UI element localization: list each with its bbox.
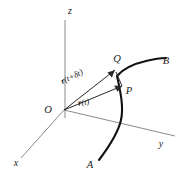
x-axis-line (21, 110, 64, 158)
axes-group (21, 20, 175, 158)
z-axis-label: z (67, 5, 72, 16)
vector-r-t-argument: (t) (81, 96, 91, 107)
vector-r-t-delta-label: r(t+δt) (59, 67, 85, 86)
vector-r-t-delta-label-group: r(t+δt) (59, 67, 85, 86)
y-axis-label: y (158, 138, 164, 149)
origin-label: O (44, 104, 52, 115)
point-q-label: Q (113, 53, 121, 64)
vector-diagram-figure: z y x O A B P Q r(t) r(t+δt) (0, 0, 181, 178)
diagram-canvas: z y x O A B P Q r(t) r(t+δt) (0, 0, 181, 178)
x-axis-label: x (13, 157, 19, 168)
vector-r-t-line (64, 86, 122, 110)
vector-r-t-label: r(t) (77, 96, 90, 108)
vector-r-t-label-group: r(t) (77, 96, 90, 108)
point-p-label: P (125, 85, 133, 96)
curve-end-label-b: B (163, 55, 170, 66)
curve-start-label-a: A (86, 159, 94, 170)
vector-r-t-delta-arrowhead (107, 70, 115, 78)
